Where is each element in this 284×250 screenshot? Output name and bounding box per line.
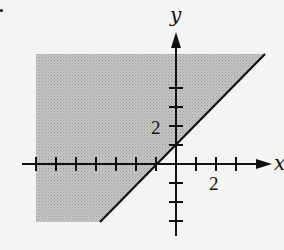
bullet-dot [0, 9, 3, 12]
y-axis-arrow-icon [171, 32, 181, 48]
x-tick-label-2: 2 [209, 173, 219, 194]
x-axis-label: x [274, 151, 284, 175]
x-axis-arrow-icon [256, 159, 272, 169]
y-axis-label: y [169, 3, 182, 27]
y-tick-label-2: 2 [151, 117, 161, 138]
inequality-graph: y x 2 2 [0, 0, 284, 250]
shaded-region [36, 54, 265, 222]
